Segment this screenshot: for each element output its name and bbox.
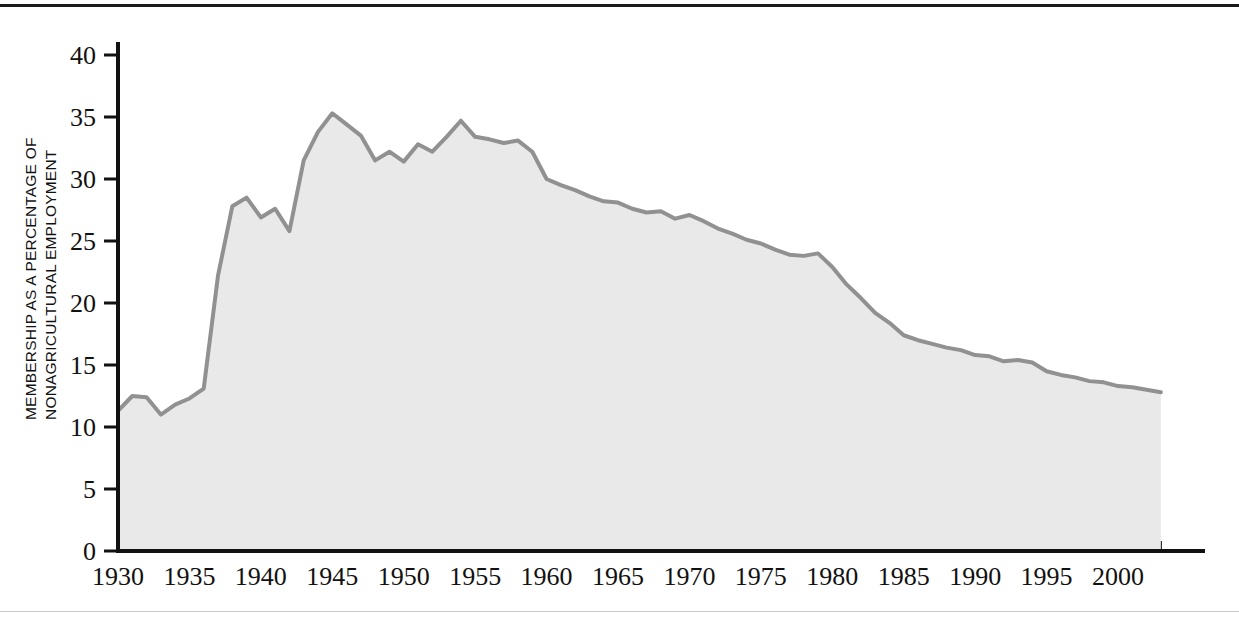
y-tick-label: 5 xyxy=(83,475,96,504)
x-tick-label: 1945 xyxy=(306,562,358,591)
y-tick-label: 20 xyxy=(70,289,96,318)
y-tick-label: 15 xyxy=(70,351,96,380)
bottom-divider-rule xyxy=(0,611,1239,612)
y-axis-label-line2: NONAGRICULTURAL EMPLOYMENT xyxy=(42,149,59,420)
x-tick-label: 1975 xyxy=(735,562,787,591)
y-axis-label: MEMBERSHIP AS A PERCENTAGE OF NONAGRICUL… xyxy=(22,137,59,420)
x-tick-label: 1930 xyxy=(92,562,144,591)
y-axis-ticks: 0510152025303540 xyxy=(70,41,118,566)
x-tick-label: 1965 xyxy=(592,562,644,591)
series-area-fill xyxy=(118,113,1161,551)
x-tick-label: 1935 xyxy=(163,562,215,591)
y-tick-label: 25 xyxy=(70,227,96,256)
x-tick-label: 1980 xyxy=(806,562,858,591)
x-tick-label: 1985 xyxy=(878,562,930,591)
y-tick-label: 10 xyxy=(70,413,96,442)
x-tick-label: 1970 xyxy=(663,562,715,591)
figure-container: MEMBERSHIP AS A PERCENTAGE OF NONAGRICUL… xyxy=(0,0,1239,617)
x-tick-label: 1940 xyxy=(235,562,287,591)
y-tick-label: 35 xyxy=(70,103,96,132)
x-tick-label: 2000 xyxy=(1092,562,1144,591)
x-tick-label: 1990 xyxy=(949,562,1001,591)
y-tick-label: 40 xyxy=(70,41,96,70)
line-area-chart: MEMBERSHIP AS A PERCENTAGE OF NONAGRICUL… xyxy=(0,0,1239,617)
x-tick-label: 1960 xyxy=(521,562,573,591)
x-tick-label: 1950 xyxy=(378,562,430,591)
x-tick-label: 1955 xyxy=(449,562,501,591)
y-axis-label-line1: MEMBERSHIP AS A PERCENTAGE OF xyxy=(22,137,39,420)
x-tick-label: 1995 xyxy=(1021,562,1073,591)
y-tick-label: 30 xyxy=(70,165,96,194)
